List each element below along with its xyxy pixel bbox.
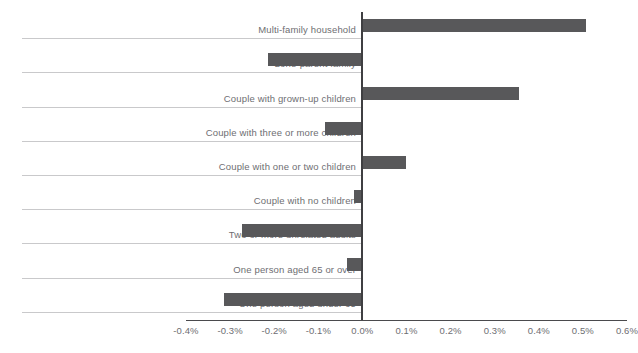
- x-tick-label: 0.2%: [440, 325, 462, 336]
- x-tick-label: 0.6%: [616, 325, 638, 336]
- bar: [362, 19, 585, 32]
- row-separator: [22, 72, 362, 73]
- chart-row: Multi-family household: [0, 12, 638, 44]
- chart-row: Couple with three or more children: [0, 115, 638, 147]
- category-label: Couple with grown-up children: [224, 93, 356, 104]
- x-tick-label: 0.4%: [528, 325, 550, 336]
- category-label: Couple with one or two children: [219, 161, 356, 172]
- row-separator: [22, 209, 362, 210]
- category-label: One person aged 65 or over: [233, 264, 356, 275]
- row-separator: [22, 312, 362, 313]
- row-separator: [22, 107, 362, 108]
- x-tick-label: -0.4%: [173, 325, 198, 336]
- chart-row: Couple with no children: [0, 183, 638, 215]
- x-axis-tick-labels: -0.4%-0.3%-0.2%-0.1%0.0%0.1%0.2%0.3%0.4%…: [0, 325, 638, 345]
- x-tick-label: -0.1%: [306, 325, 331, 336]
- plot-area: Multi-family householdLone-parent family…: [0, 0, 638, 320]
- row-separator: [22, 175, 362, 176]
- x-tick-label: 0.0%: [351, 325, 373, 336]
- row-separator: [22, 243, 362, 244]
- chart-row: Couple with grown-up children: [0, 80, 638, 112]
- bar: [362, 156, 406, 169]
- x-tick-label: -0.2%: [262, 325, 287, 336]
- x-tick-label: 0.1%: [395, 325, 417, 336]
- row-separator: [22, 141, 362, 142]
- chart-row: One person aged 65 or over: [0, 251, 638, 283]
- zero-axis-line: [361, 12, 363, 320]
- row-separator: [22, 38, 362, 39]
- chart-container: Multi-family householdLone-parent family…: [0, 0, 638, 353]
- chart-row: Lone-parent family: [0, 46, 638, 78]
- bar: [224, 293, 362, 306]
- x-axis-line: [186, 320, 627, 321]
- x-tick-label: 0.5%: [572, 325, 594, 336]
- x-tick-label: -0.3%: [217, 325, 242, 336]
- category-label: Multi-family household: [258, 24, 356, 35]
- row-separator: [22, 278, 362, 279]
- x-tick-label: 0.3%: [484, 325, 506, 336]
- bar: [268, 53, 362, 66]
- bar: [362, 87, 518, 100]
- category-label: Couple with no children: [254, 195, 356, 206]
- bar: [242, 224, 362, 237]
- bar: [325, 122, 362, 135]
- chart-row: Two or more unrelated adults: [0, 217, 638, 249]
- chart-row: One person aged under 65: [0, 286, 638, 318]
- chart-row: Couple with one or two children: [0, 149, 638, 181]
